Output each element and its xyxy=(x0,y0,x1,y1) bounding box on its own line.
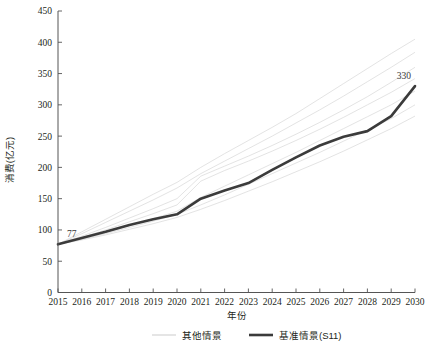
x-tick-label: 2015 xyxy=(49,297,68,307)
other-scenario-line xyxy=(58,67,415,244)
baseline-scenario-line xyxy=(58,86,415,244)
x-tick-label: 2021 xyxy=(191,297,210,307)
other-scenarios-lines xyxy=(58,39,415,244)
y-axis-title: 消费(亿元) xyxy=(4,137,15,183)
x-tick-label: 2016 xyxy=(72,297,91,307)
y-axis: 050100150200250300350400450 xyxy=(38,6,62,298)
other-scenario-line xyxy=(58,39,415,244)
x-tick-label: 2030 xyxy=(406,297,425,307)
x-tick-label: 2018 xyxy=(120,297,139,307)
data-point-label: 330 xyxy=(397,71,412,81)
x-tick-label: 2017 xyxy=(96,297,115,307)
legend-label-other-scenario: 其他情景 xyxy=(182,330,222,341)
other-scenario-line xyxy=(58,91,415,244)
chart-container: 050100150200250300350400450 201520162017… xyxy=(0,0,435,349)
x-tick-label: 2020 xyxy=(168,297,187,307)
x-axis: 2015201620172018201920202021202220232024… xyxy=(49,289,425,307)
x-tick-label: 2024 xyxy=(263,297,282,307)
data-point-labels: 77330 xyxy=(67,71,411,239)
y-tick-label: 150 xyxy=(38,194,53,204)
x-tick-label: 2028 xyxy=(358,297,377,307)
other-scenario-line xyxy=(58,52,415,244)
legend-label-baseline-scenario: 基准情景(S11) xyxy=(279,330,342,341)
y-tick-label: 50 xyxy=(43,257,53,267)
y-tick-label: 350 xyxy=(38,69,53,79)
x-tick-label: 2029 xyxy=(382,297,401,307)
x-tick-label: 2023 xyxy=(239,297,258,307)
x-axis-title: 年份 xyxy=(227,310,247,321)
y-tick-label: 450 xyxy=(38,6,53,16)
y-tick-label: 250 xyxy=(38,132,53,142)
data-point-label: 77 xyxy=(67,229,77,239)
other-scenario-line xyxy=(58,105,415,245)
x-tick-label: 2025 xyxy=(287,297,306,307)
baseline-scenario-path xyxy=(58,86,415,244)
legend: 其他情景 基准情景(S11) xyxy=(152,330,342,341)
x-tick-label: 2022 xyxy=(215,297,234,307)
x-tick-label: 2019 xyxy=(144,297,163,307)
y-tick-label: 100 xyxy=(38,225,53,235)
line-chart: 050100150200250300350400450 201520162017… xyxy=(0,0,435,349)
y-tick-label: 200 xyxy=(38,163,53,173)
x-tick-label: 2026 xyxy=(310,297,329,307)
x-tick-label: 2027 xyxy=(334,297,353,307)
y-tick-label: 300 xyxy=(38,100,53,110)
y-tick-label: 400 xyxy=(38,38,53,48)
